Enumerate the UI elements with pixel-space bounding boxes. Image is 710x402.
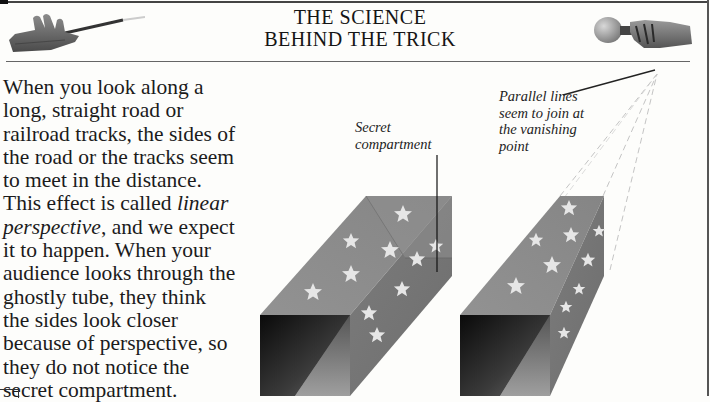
secret-compartment-label: Secret compartment — [355, 119, 432, 152]
label-line: the vanishing — [499, 121, 584, 138]
label-line: point — [499, 138, 584, 155]
vanishing-point-label: Parallel lines seem to join at the vanis… — [499, 88, 584, 154]
tube-with-secret-compartment — [260, 155, 452, 396]
label-line: compartment — [355, 136, 432, 153]
label-line: Secret — [355, 119, 432, 136]
page-corner-marker — [0, 389, 19, 398]
label-line: Parallel lines — [499, 88, 584, 105]
label-line: seem to join at — [499, 105, 584, 122]
